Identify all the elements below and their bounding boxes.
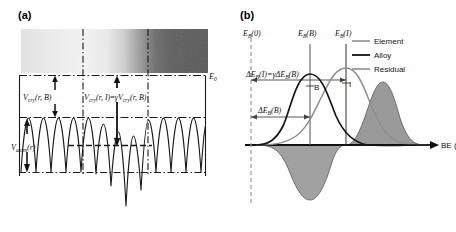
v-cry-b-label: Vcry(r, B) bbox=[23, 93, 52, 103]
eb-b-label: EB(B) bbox=[297, 29, 317, 39]
x-axis-label: BE (eV) bbox=[441, 141, 456, 150]
legend-label-alloy: Alloy bbox=[374, 51, 391, 60]
v-cry-i-label: Vcry(r, I)=γVcry(r, B) bbox=[84, 93, 147, 103]
delta-eb-b-label: ΔEB(B) bbox=[257, 106, 282, 116]
peak-b-label: B bbox=[314, 83, 319, 92]
delta-eb-i-label: ΔEB(I)=γΔEB(B) bbox=[245, 70, 299, 80]
measure-delta-b bbox=[251, 114, 310, 119]
figure-root: (a) bbox=[0, 0, 456, 232]
panel-b-graphic: BE (eV) EB(0) EB(B) EB(I) ΔEB(I)=γΔEB(B) bbox=[228, 0, 456, 232]
eb-i-label: EB(I) bbox=[334, 29, 352, 39]
legend: Element Alloy Residual bbox=[352, 37, 405, 74]
legend-label-residual: Residual bbox=[374, 65, 405, 74]
panel-a-graphic: E0 bbox=[0, 0, 228, 232]
residual-positive-lobe bbox=[346, 82, 424, 145]
residual-curve bbox=[256, 82, 424, 200]
panel-a: (a) bbox=[0, 0, 228, 232]
arrow-v-cry-b bbox=[52, 76, 58, 118]
residual-negative-lobe bbox=[256, 145, 346, 200]
periodic-potential-curve bbox=[21, 118, 206, 206]
legend-label-element: Element bbox=[374, 37, 404, 46]
peak-i-label: I bbox=[349, 80, 351, 89]
charge-density-band bbox=[21, 29, 208, 73]
eb-zero-label: EB(0) bbox=[242, 29, 261, 39]
energy-zero-label: E0 bbox=[208, 72, 217, 82]
panel-b: (b) BE (eV) bbox=[228, 0, 456, 232]
